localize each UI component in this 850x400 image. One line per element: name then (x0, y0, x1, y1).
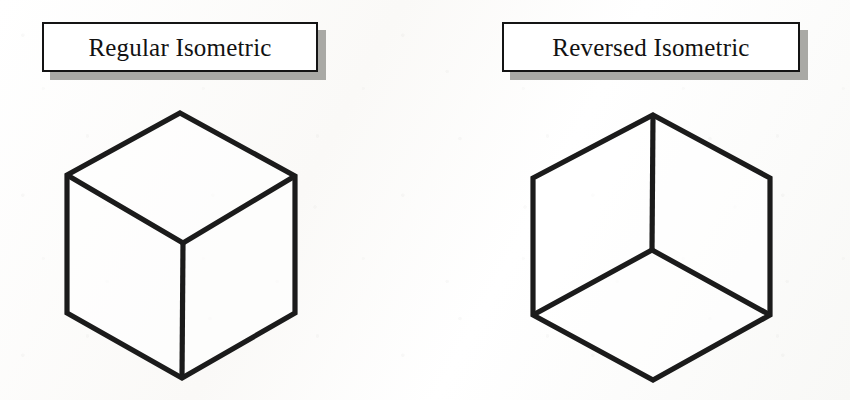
regular-cube-left-face (67, 175, 183, 378)
panel-label-regular: Regular Isometric (42, 22, 318, 72)
regular-cube-top-face (67, 113, 295, 243)
regular-cube-outline (67, 113, 295, 378)
reversed-cube-right-face (652, 115, 770, 315)
regular-cube-interior-vertical-edge (182, 243, 183, 378)
reversed-cube-bottom-face (533, 250, 770, 380)
isometric-comparison-figure: Regular Isometric Reversed Isometric (0, 0, 850, 400)
reversed-cube-interior-lower-edges (533, 250, 770, 315)
reversed-cube-left-face (533, 115, 653, 315)
reversed-cube-interior-vertical-edge (652, 115, 653, 250)
panel-label-regular-text: Regular Isometric (88, 35, 271, 60)
reversed-cube-outline (533, 115, 770, 380)
panel-label-reversed-text: Reversed Isometric (552, 35, 749, 60)
panel-label-reversed: Reversed Isometric (502, 22, 800, 72)
regular-cube-interior-upper-edges (67, 175, 295, 243)
regular-cube-right-face (182, 176, 295, 378)
